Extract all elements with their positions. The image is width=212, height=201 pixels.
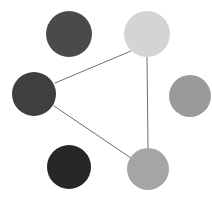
node-layer	[12, 11, 211, 190]
graph-node-top-left[interactable]	[46, 11, 92, 57]
graph-svg	[0, 0, 212, 201]
graph-edge-n2-n6[interactable]	[147, 57, 148, 148]
graph-node-left[interactable]	[12, 72, 56, 116]
edge-layer	[54, 51, 148, 158]
graph-node-bottom-center[interactable]	[127, 148, 169, 190]
graph-node-bottom-left[interactable]	[47, 145, 91, 189]
graph-canvas	[0, 0, 212, 201]
graph-node-top-right[interactable]	[124, 11, 170, 57]
graph-node-right[interactable]	[169, 75, 211, 117]
